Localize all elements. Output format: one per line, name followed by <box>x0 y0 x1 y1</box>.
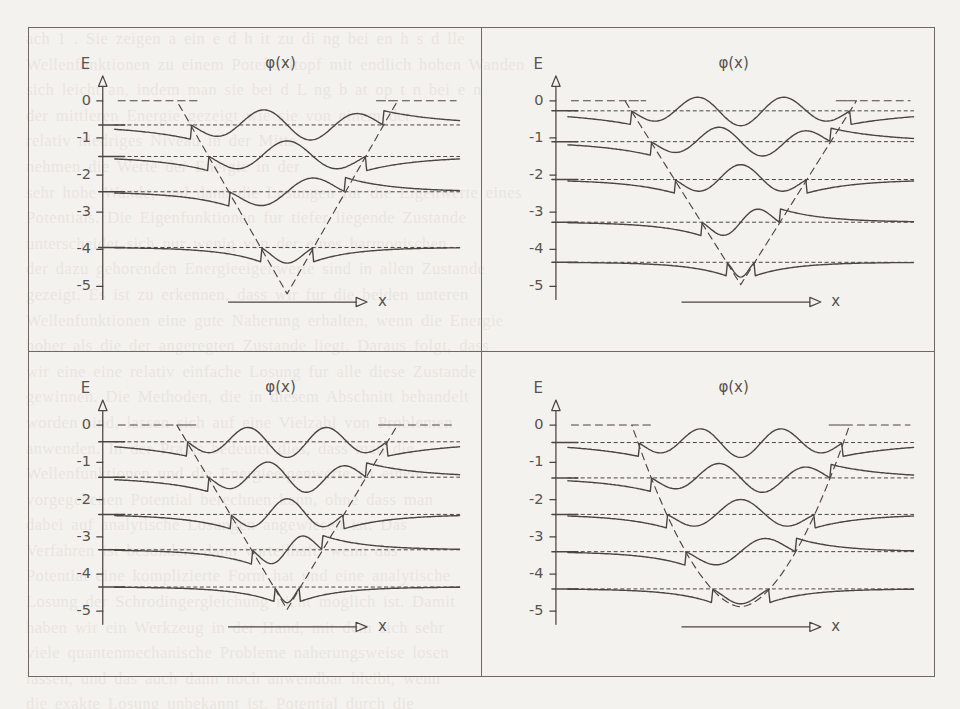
x-axis-arrowhead <box>356 297 367 306</box>
wavefunction-axis-label: φ(x) <box>265 54 295 72</box>
plot-top-right <box>482 28 935 351</box>
wavefunction-curve <box>115 462 460 492</box>
x-axis-label: x <box>378 292 387 310</box>
potential-curve <box>571 425 910 607</box>
y-tick-label: -4 <box>515 565 543 581</box>
e-axis-arrowhead <box>99 76 107 86</box>
wavefunction-curve <box>567 429 913 458</box>
panel-grid: Eφ(x)x0-1-2-3-4-5 Eφ(x)x0-1-2-3-4-5 Eφ(x… <box>29 28 934 676</box>
y-tick-label: -1 <box>515 129 543 145</box>
y-tick-label: 0 <box>63 416 91 432</box>
plot-bottom-right <box>482 352 935 676</box>
y-tick-label: -4 <box>63 240 91 256</box>
panel-bottom-right: Eφ(x)x0-1-2-3-4-5 <box>482 352 935 676</box>
x-axis-label: x <box>831 292 840 310</box>
x-axis-label: x <box>378 617 387 635</box>
wavefunction-curve <box>567 263 913 278</box>
y-tick-label: -1 <box>63 453 91 469</box>
y-tick-label: -5 <box>63 277 91 293</box>
potential-curve <box>571 101 910 285</box>
panel-top-right: Eφ(x)x0-1-2-3-4-5 <box>482 28 935 352</box>
x-axis-arrowhead <box>809 622 820 631</box>
plot-top-left <box>29 28 481 351</box>
x-axis-arrowhead <box>809 297 820 306</box>
potential-curve <box>118 101 456 294</box>
y-tick-label: -5 <box>63 602 91 618</box>
plot-bottom-left <box>29 352 481 676</box>
wavefunction-curve <box>115 141 460 171</box>
wavefunction-curve <box>567 589 913 604</box>
wavefunction-axis-label: φ(x) <box>718 378 748 396</box>
y-tick-label: 0 <box>515 416 543 432</box>
wavefunction-curve <box>567 97 913 125</box>
y-tick-label: -3 <box>515 203 543 219</box>
y-tick-label: -5 <box>515 602 543 618</box>
wavefunction-curve <box>115 499 460 529</box>
e-axis-arrowhead <box>551 76 559 86</box>
e-axis-label: E <box>533 379 542 397</box>
y-tick-label: -1 <box>63 129 91 145</box>
e-axis-label: E <box>533 55 542 73</box>
e-axis-arrowhead <box>551 400 559 411</box>
x-axis-label: x <box>831 617 840 635</box>
x-axis-arrowhead <box>356 622 367 631</box>
wavefunction-curve <box>115 428 460 458</box>
y-tick-label: -2 <box>515 166 543 182</box>
panel-top-left: Eφ(x)x0-1-2-3-4-5 <box>29 28 482 352</box>
y-tick-label: -4 <box>63 565 91 581</box>
wavefunction-curve <box>567 464 913 493</box>
e-axis-label: E <box>81 379 90 397</box>
panel-bottom-left: Eφ(x)x0-1-2-3-4-5 <box>29 352 482 676</box>
y-tick-label: -2 <box>515 491 543 507</box>
y-tick-label: -5 <box>515 277 543 293</box>
wavefunction-curve <box>115 248 460 263</box>
wavefunction-curve <box>567 209 913 236</box>
y-tick-label: -4 <box>515 240 543 256</box>
e-axis-label: E <box>81 55 90 73</box>
y-tick-label: -1 <box>515 453 543 469</box>
y-tick-label: -3 <box>63 528 91 544</box>
y-tick-label: 0 <box>63 92 91 108</box>
wavefunction-curve <box>567 500 913 528</box>
y-tick-label: -3 <box>63 203 91 219</box>
wavefunction-curve <box>115 587 460 602</box>
y-tick-label: 0 <box>515 92 543 108</box>
y-tick-label: -2 <box>63 166 91 182</box>
y-tick-label: -2 <box>63 491 91 507</box>
wavefunction-axis-label: φ(x) <box>718 54 748 72</box>
y-tick-label: -3 <box>515 528 543 544</box>
figure-frame: Eφ(x)x0-1-2-3-4-5 Eφ(x)x0-1-2-3-4-5 Eφ(x… <box>28 27 935 677</box>
wavefunction-curve <box>567 165 913 193</box>
wavefunction-axis-label: φ(x) <box>265 378 295 396</box>
e-axis-arrowhead <box>99 400 107 411</box>
wavefunction-curve <box>115 178 460 206</box>
